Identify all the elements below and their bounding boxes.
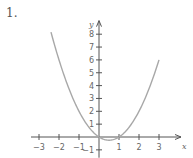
x-tick-label: −3	[33, 143, 45, 152]
y-tick-label: 7	[89, 43, 94, 52]
y-tick-label: 5	[89, 69, 94, 78]
y-tick-label: 8	[89, 30, 94, 39]
x-tick-label: 1	[116, 143, 121, 152]
y-tick-label: 3	[89, 94, 94, 103]
x-tick-label: −2	[53, 143, 65, 152]
y-tick-label: −1	[82, 146, 94, 155]
y-tick-label: 4	[89, 82, 94, 91]
y-tick-label: 6	[89, 56, 94, 65]
parabola-chart: xy−3−2−1123−112345678	[0, 0, 193, 158]
x-tick-label: 2	[136, 143, 141, 152]
parabola-curve	[51, 32, 159, 140]
y-tick-label: 2	[89, 107, 94, 116]
x-tick-label: 3	[156, 143, 161, 152]
tick-labels: xy−3−2−1123−112345678	[33, 20, 187, 155]
y-axis-label: y	[88, 20, 94, 29]
x-axis-label: x	[182, 142, 187, 151]
